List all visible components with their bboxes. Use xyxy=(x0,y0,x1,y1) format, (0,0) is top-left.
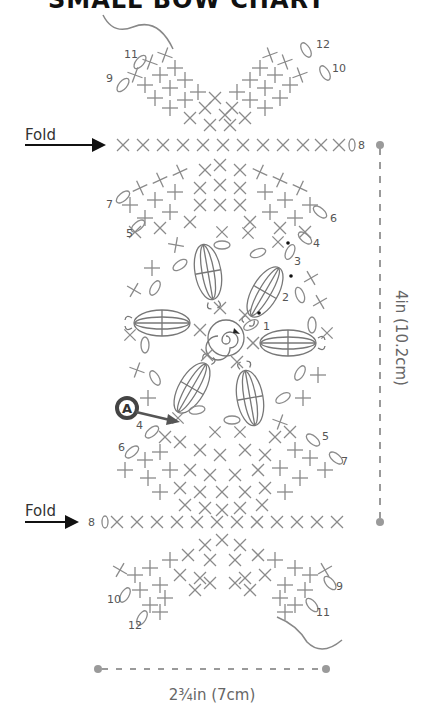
yarn-tail-bottom xyxy=(277,617,342,649)
round-label-6-upper: 6 xyxy=(330,212,337,225)
round-label-12: 12 xyxy=(316,38,330,51)
fold-label-top: Fold xyxy=(25,126,56,144)
width-dimension-line xyxy=(94,665,330,673)
round-label-1: 1 xyxy=(263,320,270,333)
fold-row-top xyxy=(117,139,355,151)
round-label-8-top: 8 xyxy=(358,139,365,152)
round-label-4: 4 xyxy=(313,237,320,250)
center-motif xyxy=(119,221,339,444)
callout-letter: A xyxy=(122,401,132,416)
round-label-5-upper: 5 xyxy=(126,227,133,240)
lower-middle-fan xyxy=(117,424,345,516)
round-label-7-lower: 7 xyxy=(341,455,348,468)
round-label-4-lower: 4 xyxy=(136,419,143,432)
round-label-11: 11 xyxy=(124,48,138,61)
top-fan xyxy=(115,41,333,131)
height-dimension-label: 4in (10.2cm) xyxy=(392,290,410,386)
round-label-10: 10 xyxy=(332,62,346,75)
round-label-11-bottom: 11 xyxy=(316,606,330,619)
round-label-7-upper: 7 xyxy=(106,198,113,211)
yarn-tail-top xyxy=(103,15,173,49)
round-label-10-bottom: 10 xyxy=(107,593,121,606)
round-label-9-bottom: 9 xyxy=(336,580,343,593)
round-label-12-bottom: 12 xyxy=(128,619,142,632)
round-label-2: 2 xyxy=(282,291,289,304)
bottom-fan xyxy=(109,534,338,627)
crochet-chart: 9 10 11 12 Fold 8 7 6 5 xyxy=(0,0,440,724)
height-dimension-line xyxy=(376,141,384,526)
round-label-5-lower: 5 xyxy=(322,430,329,443)
round-label-3: 3 xyxy=(294,255,301,268)
fold-row-bottom xyxy=(102,516,343,528)
round-label-6-lower: 6 xyxy=(118,441,125,454)
fold-label-bottom: Fold xyxy=(25,502,56,520)
round-label-9: 9 xyxy=(106,72,113,85)
width-dimension-label: 2¾in (7cm) xyxy=(169,686,256,704)
round-label-8-bottom: 8 xyxy=(88,516,95,529)
